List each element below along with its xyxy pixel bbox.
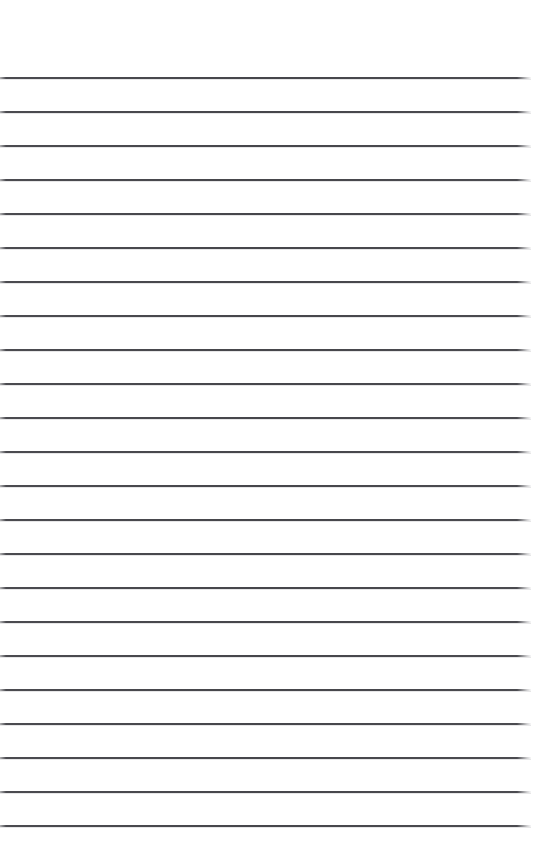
rule-line — [0, 179, 531, 181]
lined-paper-page — [0, 0, 537, 863]
rule-line — [0, 451, 531, 453]
rule-line — [0, 689, 531, 691]
rule-line — [0, 723, 531, 725]
rule-line — [0, 417, 531, 419]
rule-line — [0, 349, 531, 351]
rule-line — [0, 383, 531, 385]
rule-line — [0, 587, 531, 589]
rule-line — [0, 77, 531, 79]
rule-line — [0, 621, 531, 623]
rule-line — [0, 281, 531, 283]
rule-line — [0, 145, 531, 147]
rule-line — [0, 519, 531, 521]
rule-line — [0, 553, 531, 555]
rule-line — [0, 655, 531, 657]
rule-line — [0, 247, 531, 249]
rule-line — [0, 315, 531, 317]
rule-line — [0, 791, 531, 793]
rule-line — [0, 757, 531, 759]
rule-line — [0, 485, 531, 487]
ruled-lines-area — [0, 0, 537, 863]
rule-line — [0, 825, 531, 827]
rule-line — [0, 213, 531, 215]
rule-line — [0, 111, 531, 113]
